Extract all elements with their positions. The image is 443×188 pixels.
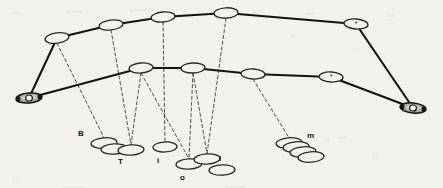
dashed-link (253, 79, 289, 138)
endpoint-left (16, 92, 43, 104)
cluster-label-t: T (118, 158, 123, 166)
cluster-ellipse (194, 153, 221, 165)
dashed-link (57, 43, 104, 138)
solid-link (29, 68, 141, 98)
lower-chain-node (241, 68, 265, 79)
dashed-link (131, 73, 141, 145)
cluster-ellipse-group (91, 137, 325, 176)
chain-node-group (44, 7, 368, 82)
upper-chain-node (44, 31, 69, 45)
endpoint-marker-group (16, 92, 427, 114)
cluster-ellipse (209, 164, 235, 175)
solid-link (331, 77, 413, 108)
dashed-projection-lines (57, 18, 289, 159)
lower-chain-node (181, 63, 205, 74)
cluster-label-m: m (307, 132, 314, 140)
dashed-link (111, 30, 131, 145)
figure-canvas: theratherpossibleaandareoutinfor19the41t… (0, 0, 443, 188)
dashed-link (207, 18, 226, 154)
cluster-label-b: B (78, 130, 84, 138)
solid-link (226, 13, 356, 24)
cluster-label-i: i (157, 157, 159, 165)
upper-chain-node (214, 7, 239, 19)
node-asterisk-icon: * (355, 20, 358, 27)
upper-chain-node (98, 19, 123, 32)
cluster-label-l: l (219, 155, 221, 163)
solid-link (29, 38, 57, 98)
upper-chain-node (151, 11, 176, 23)
lower-chain-node (129, 62, 154, 74)
dashed-link (163, 22, 165, 142)
endpoint-right (400, 102, 427, 115)
cluster-label-o: o (180, 174, 185, 182)
dashed-link (189, 73, 193, 159)
dashed-link (193, 73, 207, 154)
diagram-artwork: ** (0, 0, 443, 188)
node-asterisk-icon: * (330, 73, 333, 80)
solid-link (356, 24, 413, 108)
cluster-ellipse (153, 142, 177, 153)
